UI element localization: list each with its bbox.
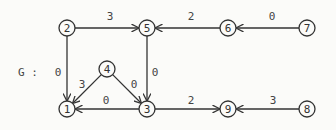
node-label: 4 xyxy=(104,63,111,76)
node-6: 6 xyxy=(220,20,236,36)
edge-weight-label: 0 xyxy=(152,66,159,79)
node-label: 2 xyxy=(64,22,71,35)
edge-weight-label: 2 xyxy=(188,10,195,23)
edge-weight-label: 0 xyxy=(131,78,138,91)
edge-weight-label: 0 xyxy=(55,66,62,79)
node-8: 8 xyxy=(299,101,315,117)
edge-weight-label: 3 xyxy=(79,78,86,91)
node-label: 6 xyxy=(225,22,232,35)
edge-weight-label: 3 xyxy=(270,94,277,107)
node-1: 1 xyxy=(59,101,75,117)
weight-labels-group: 3200030023 xyxy=(55,10,277,107)
node-label: 3 xyxy=(144,103,151,116)
graph-name-label: G : xyxy=(18,66,38,79)
node-9: 9 xyxy=(220,101,236,117)
graph-diagram: G : 3200030023 123456789 xyxy=(0,0,336,130)
edge-weight-label: 0 xyxy=(103,94,110,107)
node-label: 8 xyxy=(304,103,311,116)
node-label: 5 xyxy=(144,22,151,35)
node-7: 7 xyxy=(299,20,315,36)
edge-4-to-1 xyxy=(73,75,101,103)
edge-weight-label: 3 xyxy=(107,10,114,23)
node-label: 7 xyxy=(304,22,311,35)
node-2: 2 xyxy=(59,20,75,36)
node-label: 9 xyxy=(225,103,232,116)
edge-weight-label: 2 xyxy=(188,94,195,107)
edge-weight-label: 0 xyxy=(269,10,276,23)
node-label: 1 xyxy=(64,103,71,116)
node-5: 5 xyxy=(139,20,155,36)
node-4: 4 xyxy=(99,61,115,77)
node-3: 3 xyxy=(139,101,155,117)
